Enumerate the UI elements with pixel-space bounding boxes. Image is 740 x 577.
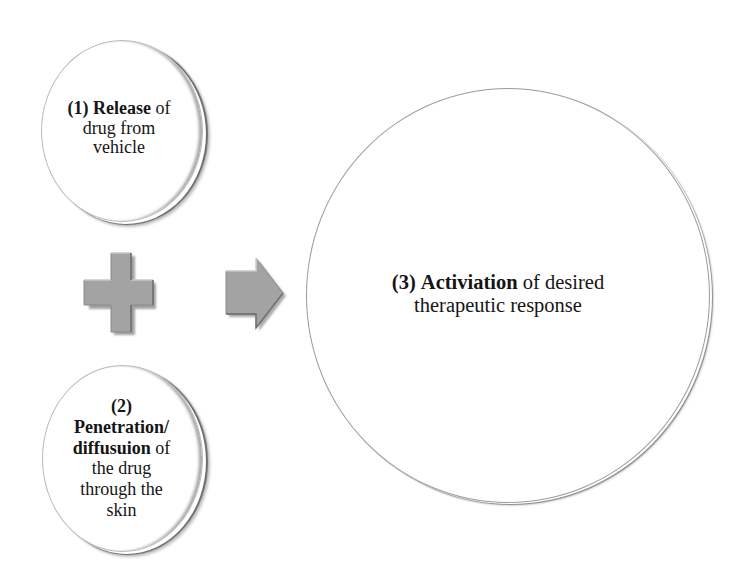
step-2-text-line5: skin	[106, 500, 136, 520]
step-1-keyword: Release	[93, 98, 151, 118]
step-3-text-line1: of desired	[518, 271, 605, 293]
step-3-keyword: Activiation	[421, 271, 518, 293]
step-2-number: (2)	[111, 396, 132, 416]
arrow-right-icon	[224, 256, 288, 332]
step-1-number: (1)	[68, 98, 89, 118]
step-3-activation-circle: (3) Activiation of desired therapeutic r…	[306, 88, 710, 503]
step-2-text-line4: through the	[80, 479, 163, 499]
step-2-text-line2: of	[151, 438, 171, 458]
step-1-label: (1) Release of drug from vehicle	[42, 99, 202, 158]
step-2-label: (2) Penetration/ diffusuion of the drug …	[43, 396, 202, 521]
step-3-label: (3) Activiation of desired therapeutic r…	[307, 271, 709, 317]
step-1-text-line2: drug from	[83, 118, 155, 138]
step-2-penetration-circle: (2) Penetration/ diffusuion of the drug …	[42, 365, 203, 552]
step-1-release-circle: (1) Release of drug from vehicle	[41, 40, 203, 222]
step-2-keyword-line1: Penetration/	[74, 417, 169, 437]
step-1-text-line3: vehicle	[93, 137, 145, 157]
step-1-text-line1: of	[151, 98, 171, 118]
step-3-number: (3)	[392, 271, 416, 293]
step-2-text-line3: the drug	[92, 458, 151, 478]
step-2-keyword-line2: diffusuion	[73, 438, 151, 458]
plus-icon	[82, 251, 158, 337]
step-3-text-line2: therapeutic response	[414, 294, 582, 316]
